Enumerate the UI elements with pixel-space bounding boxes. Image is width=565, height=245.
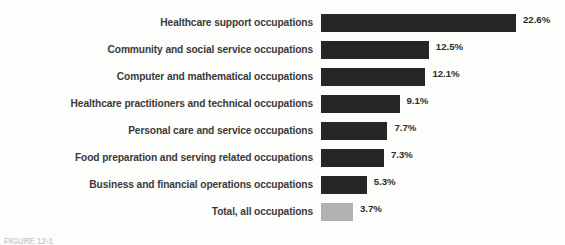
bar-container (321, 176, 367, 194)
bar[interactable] (321, 122, 387, 140)
value-label: 9.1% (400, 92, 429, 110)
bar[interactable] (321, 149, 384, 167)
category-label: Food preparation and serving related occ… (11, 146, 321, 169)
bar-container (321, 68, 425, 86)
category-label: Community and social service occupations (11, 38, 321, 61)
chart-row: Personal care and service occupations7.7… (0, 119, 565, 142)
bar-chart: Healthcare support occupations22.6%Commu… (0, 0, 565, 245)
bar[interactable] (321, 14, 516, 32)
bar[interactable] (321, 68, 425, 86)
bar-container (321, 14, 516, 32)
chart-row: Healthcare practitioners and technical o… (0, 92, 565, 115)
chart-row: Business and financial operations occupa… (0, 173, 565, 196)
category-label: Total, all occupations (11, 200, 321, 223)
value-label: 12.5% (429, 38, 463, 56)
bar-container (321, 95, 400, 113)
category-label: Personal care and service occupations (11, 119, 321, 142)
bar[interactable] (321, 203, 353, 221)
bar-container (321, 41, 429, 59)
value-label: 3.7% (353, 200, 382, 218)
bar[interactable] (321, 176, 367, 194)
category-label: Healthcare support occupations (11, 11, 321, 34)
value-label: 12.1% (425, 65, 459, 83)
figure-caption: FIGURE 12-1 (4, 236, 561, 245)
value-label: 5.3% (367, 173, 396, 191)
value-label: 22.6% (516, 11, 550, 29)
category-label: Healthcare practitioners and technical o… (11, 92, 321, 115)
bar-container (321, 149, 384, 167)
value-label: 7.7% (387, 119, 416, 137)
bar[interactable] (321, 41, 429, 59)
bar-container (321, 203, 353, 221)
value-label: 7.3% (384, 146, 413, 164)
chart-row: Computer and mathematical occupations12.… (0, 65, 565, 88)
category-label: Computer and mathematical occupations (11, 65, 321, 88)
chart-row: Total, all occupations3.7% (0, 200, 565, 223)
chart-row: Food preparation and serving related occ… (0, 146, 565, 169)
chart-row: Healthcare support occupations22.6% (0, 11, 565, 34)
bar[interactable] (321, 95, 400, 113)
chart-row: Community and social service occupations… (0, 38, 565, 61)
category-label: Business and financial operations occupa… (11, 173, 321, 196)
bar-container (321, 122, 387, 140)
